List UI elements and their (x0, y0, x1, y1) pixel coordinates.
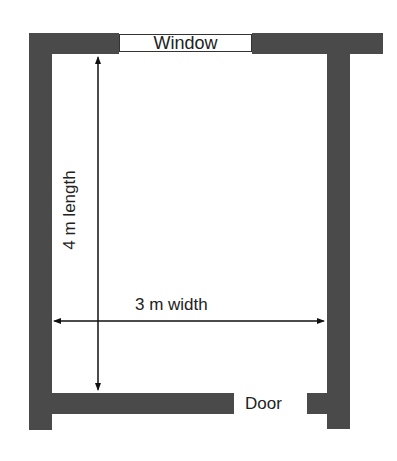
width-label: 3 m width (135, 295, 208, 315)
length-label: 4 m length (60, 165, 80, 255)
